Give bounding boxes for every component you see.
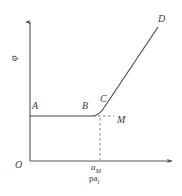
annotation-point-m: M (117, 115, 125, 125)
x-axis-base: pa (89, 173, 98, 183)
annotation-point-a: A (32, 101, 38, 111)
annotation-point-d: D (158, 14, 165, 24)
figure-container: A B C D M O φ aM pai (0, 0, 182, 196)
curve-segment-cd (105, 27, 159, 107)
x-axis-subscript: i (98, 178, 100, 185)
y-axis-label: φ (9, 55, 19, 61)
curve-segment-bc (92, 107, 105, 116)
axis-origin-label: O (15, 160, 22, 170)
annotation-point-b: B (82, 101, 88, 111)
x-axis-label: pai (89, 174, 99, 185)
annotation-point-c: C (100, 94, 107, 104)
